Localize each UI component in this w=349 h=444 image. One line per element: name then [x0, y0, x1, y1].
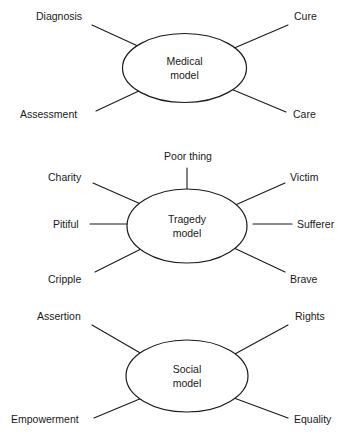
node-label-rights: Rights: [295, 310, 325, 322]
diagram-canvas: Medical model Diagnosis Cure Assessment …: [0, 0, 349, 444]
group-tragedy-model: Tragedy model Poor thing Charity Victim …: [48, 150, 335, 285]
group-social-model: Social model Assertion Rights Empowermen…: [11, 310, 332, 425]
node-label-sufferer: Sufferer: [297, 218, 335, 230]
ellipse-social-model: [126, 340, 248, 412]
spoke-victim: [233, 183, 285, 206]
node-label-equality: Equality: [294, 413, 332, 425]
node-label-cripple: Cripple: [48, 273, 81, 285]
spoke-care: [231, 89, 286, 112]
center-label-tragedy-line2: model: [173, 227, 202, 239]
models-of-disability-diagram: Medical model Diagnosis Cure Assessment …: [0, 0, 349, 444]
node-label-cure: Cure: [294, 10, 317, 22]
spoke-charity: [93, 183, 143, 205]
spoke-assertion: [92, 325, 142, 354]
center-label-tragedy-line1: Tragedy: [168, 213, 207, 225]
node-label-poor-thing: Poor thing: [164, 150, 212, 162]
ellipse-tragedy-model: [127, 189, 247, 263]
spoke-diagnosis: [92, 25, 140, 47]
center-label-social-line2: model: [173, 377, 202, 389]
center-label-medical-line2: model: [170, 69, 199, 81]
spoke-equality: [234, 398, 288, 418]
node-label-charity: Charity: [48, 171, 82, 183]
group-medical-model: Medical model Diagnosis Cure Assessment …: [20, 10, 317, 120]
spoke-cripple: [95, 248, 143, 272]
node-label-assertion: Assertion: [37, 310, 81, 322]
spoke-brave: [234, 248, 285, 272]
center-label-social-line1: Social: [173, 363, 202, 375]
node-label-brave: Brave: [290, 273, 318, 285]
spoke-cure: [232, 25, 288, 49]
spoke-rights: [233, 325, 288, 355]
node-label-victim: Victim: [290, 171, 319, 183]
center-label-medical-line1: Medical: [166, 55, 202, 67]
node-label-care: Care: [293, 108, 316, 120]
node-label-assessment: Assessment: [20, 108, 77, 120]
node-label-empowerment: Empowerment: [11, 413, 79, 425]
spoke-assessment: [96, 90, 141, 111]
ellipse-medical-model: [123, 34, 247, 103]
node-label-pitiful: Pitiful: [53, 218, 79, 230]
node-label-diagnosis: Diagnosis: [36, 10, 82, 22]
spoke-empowerment: [94, 398, 142, 418]
